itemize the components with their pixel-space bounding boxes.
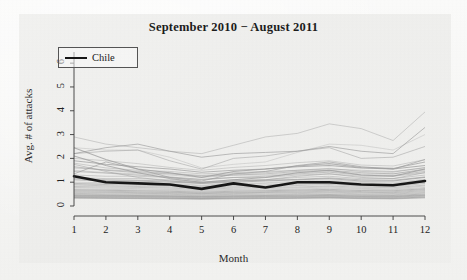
x-tick-label-12: 12: [413, 224, 437, 235]
legend-line-icon: [65, 57, 87, 59]
plot-canvas: [0, 0, 467, 280]
y-tick-label-0: 0: [55, 197, 66, 213]
x-tick-label-8: 8: [285, 224, 309, 235]
x-tick-label-11: 11: [381, 224, 405, 235]
y-tick-label-5: 5: [55, 77, 66, 93]
y-tick-label-4: 4: [55, 101, 66, 117]
x-tick-label-6: 6: [222, 224, 246, 235]
x-tick-label-3: 3: [126, 224, 150, 235]
x-tick-label-5: 5: [190, 224, 214, 235]
y-tick-label-1: 1: [55, 173, 66, 189]
legend-label-chile: Chile: [92, 52, 115, 63]
x-tick-label-2: 2: [94, 224, 118, 235]
x-tick-label-1: 1: [62, 224, 86, 235]
legend: Chile: [58, 47, 138, 68]
x-tick-label-10: 10: [349, 224, 373, 235]
y-tick-label-2: 2: [55, 149, 66, 165]
x-tick-label-7: 7: [253, 224, 277, 235]
x-tick-label-4: 4: [158, 224, 182, 235]
x-tick-label-9: 9: [317, 224, 341, 235]
chart-figure: September 2010 − August 2011 Avg. # of a…: [0, 0, 467, 280]
series-line-outlier-top: [74, 112, 425, 154]
y-tick-label-3: 3: [55, 125, 66, 141]
series-line-outlier-mid: [74, 127, 425, 157]
